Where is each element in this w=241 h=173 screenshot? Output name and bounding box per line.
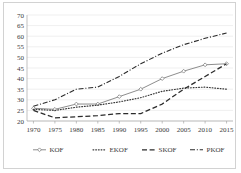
x-axis-tick-label: 1995: [134, 126, 149, 134]
series-line-ekof: [33, 87, 226, 110]
legend-label-skof[interactable]: SKOF: [159, 146, 177, 154]
series-marker-kof: [74, 102, 78, 106]
series-marker-kof: [139, 87, 143, 91]
y-axis-tick-label: 35: [17, 86, 25, 94]
x-axis-tick-label: 2000: [155, 126, 170, 134]
y-axis-tick-label: 40: [17, 75, 25, 83]
x-axis-tick-label: 1980: [69, 126, 84, 134]
series-line-skof: [33, 64, 226, 118]
x-axis-tick-label: 2015: [220, 126, 235, 134]
series-marker-kof: [117, 95, 121, 99]
x-axis-tick-labels: 1970197519801985199019952000200520102015: [26, 121, 234, 134]
y-axis-tick-label: 25: [17, 107, 25, 115]
x-axis-tick-label: 2005: [177, 126, 192, 134]
x-axis-tick-label: 1970: [26, 126, 41, 134]
legend-label-pkof[interactable]: PKOF: [207, 146, 225, 154]
y-axis-tick-label: 60: [17, 33, 25, 41]
y-axis-tick-label: 70: [17, 12, 25, 20]
series-marker-kof: [160, 77, 164, 81]
chart-canvas: 2025303540455055606570 19701975198019851…: [0, 0, 241, 173]
x-axis-tick-label: 2010: [198, 126, 213, 134]
y-axis-tick-label: 30: [17, 96, 25, 104]
x-axis-tick-label: 1990: [112, 126, 127, 134]
legend-label-ekof[interactable]: EKOF: [110, 146, 128, 154]
y-axis-tick-label: 65: [17, 22, 25, 30]
y-axis-tick-label: 20: [17, 118, 25, 126]
legend-marker-kof: [38, 148, 42, 152]
y-axis-tick-label: 50: [17, 54, 25, 62]
x-axis-tick-label: 1985: [91, 126, 106, 134]
y-axis-tick-label: 55: [17, 43, 25, 51]
grid-lines: [27, 15, 233, 121]
y-axis-tick-labels: 2025303540455055606570: [17, 12, 25, 126]
series-line-pkof: [33, 33, 226, 106]
chart-legend: KOFEKOFSKOFPKOF: [33, 146, 225, 154]
x-axis-tick-label: 1975: [48, 126, 63, 134]
y-axis-tick-label: 45: [17, 65, 25, 73]
series-marker-kof: [203, 63, 207, 67]
data-series-group: [32, 33, 229, 118]
series-marker-kof: [182, 69, 186, 73]
legend-label-kof[interactable]: KOF: [50, 146, 64, 154]
